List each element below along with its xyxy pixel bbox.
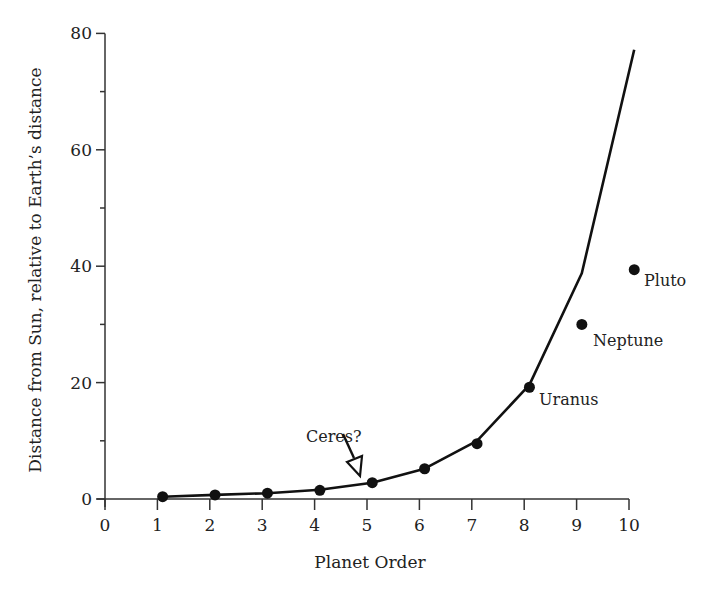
x-tick-label: 9 [571, 515, 582, 535]
planet-point [629, 264, 640, 275]
y-tick-label: 40 [70, 256, 92, 276]
planet-point [262, 488, 273, 499]
x-tick-label: 2 [204, 515, 215, 535]
annotations: Ceres? Uranus Neptune Pluto [306, 271, 686, 476]
x-tick-label: 7 [466, 515, 477, 535]
y-tick-label: 60 [70, 140, 92, 160]
planet-point [576, 319, 587, 330]
planet-point [419, 463, 430, 474]
uranus-label: Uranus [539, 390, 599, 409]
neptune-label: Neptune [593, 331, 663, 350]
predicted-curve-line [163, 50, 635, 497]
predicted-curve [163, 50, 635, 497]
ceres-label: Ceres? [306, 427, 362, 446]
x-tick-label: 10 [618, 515, 640, 535]
planet-point [314, 485, 325, 496]
axes [97, 33, 629, 507]
planet-points [157, 264, 640, 502]
x-tick-label: 0 [100, 515, 111, 535]
x-tick-label: 6 [414, 515, 425, 535]
x-tick-label: 4 [309, 515, 320, 535]
x-tick-label: 8 [519, 515, 530, 535]
x-tick-label: 3 [257, 515, 268, 535]
planet-point [367, 477, 378, 488]
x-tick-label: 5 [362, 515, 373, 535]
x-axis-label: Planet Order [314, 552, 426, 572]
planet-point [210, 489, 221, 500]
y-axis-label: Distance from Sun, relative to Earth’s d… [25, 67, 45, 472]
y-tick-label: 20 [70, 373, 92, 393]
y-tick-label: 0 [81, 489, 92, 509]
planet-distance-chart: 020406080012345678910 Ceres? Uranus Nept… [0, 0, 714, 597]
x-tick-label: 1 [152, 515, 163, 535]
planet-point [472, 438, 483, 449]
pluto-label: Pluto [644, 271, 686, 290]
planet-point [524, 382, 535, 393]
planet-point [157, 491, 168, 502]
y-tick-label: 80 [70, 23, 92, 43]
